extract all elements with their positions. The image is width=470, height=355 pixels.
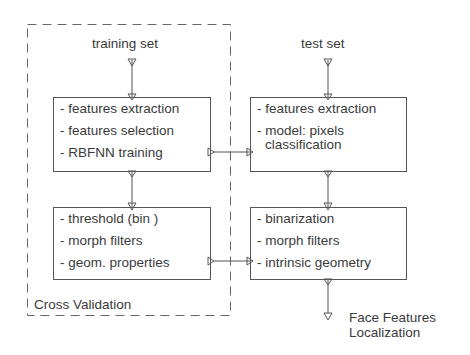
box-line: - features selection: [60, 123, 174, 139]
box-line: - features extraction: [60, 101, 179, 117]
box-line: classification: [265, 137, 342, 153]
cross-validation-label: Cross Validation: [34, 297, 131, 313]
box-line: - morph filters: [257, 233, 340, 249]
training-postprocess-box: - threshold (bin ) - morph filters - geo…: [53, 207, 211, 280]
box-line: - morph filters: [60, 233, 143, 249]
output-label-line1: Face Features: [349, 310, 436, 325]
test-postprocess-box: - binarization - morph filters - intrins…: [250, 207, 407, 280]
box-line: - threshold (bin ): [60, 211, 158, 227]
test-set-label: test set: [301, 36, 345, 52]
output-label-line2: Localization: [349, 325, 420, 340]
box-line: - binarization: [257, 211, 334, 227]
output-triangle-icon: [324, 313, 332, 320]
training-model-box: - features extraction - features selecti…: [53, 97, 211, 172]
box-line: - features extraction: [257, 101, 376, 117]
test-classification-box: - features extraction - model: pixels cl…: [250, 97, 407, 172]
box-line: - intrinsic geometry: [257, 255, 371, 271]
training-set-label: training set: [92, 36, 158, 52]
box-line: - geom. properties: [60, 255, 170, 271]
box-line: - RBFNN training: [60, 145, 163, 161]
